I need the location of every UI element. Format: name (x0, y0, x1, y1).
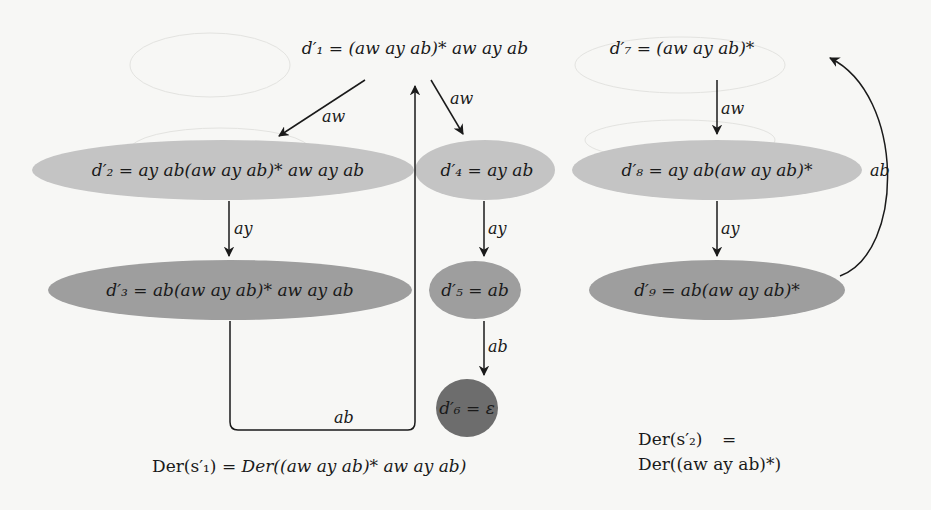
caption-right-line1: Der(s′₂) = (638, 429, 736, 449)
node-d9-label: d′₉ = ab(aw ay ab)* (634, 280, 800, 300)
derivative-diagram: d′₁ = (aw ay ab)* aw ay ab d′₂ = ay ab(a… (0, 0, 931, 510)
node-d3-label: d′₃ = ab(aw ay ab)* aw ay ab (106, 280, 353, 300)
edge-label-d2-d3: ay (234, 219, 254, 238)
node-d6-label: d′₆ = ε (439, 398, 495, 418)
node-d2-label: d′₂ = ay ab(aw ay ab)* aw ay ab (92, 160, 364, 180)
edge-label-d7-d8: aw (721, 99, 745, 118)
node-d5-label: d′₅ = ab (441, 280, 509, 300)
caption-left: Der(s′₁) = Der((aw ay ab)* aw ay ab) (152, 456, 466, 476)
edge-label-d3-d1: ab (334, 408, 354, 427)
node-d4-label: d′₄ = ay ab (441, 160, 534, 180)
edge-label-d9-d7: ab (870, 161, 890, 180)
node-d7-label: d′₇ = (aw ay ab)* (610, 38, 755, 58)
edge-label-d5-d6: ab (488, 337, 508, 356)
edge-label-d4-d5: ay (488, 219, 508, 238)
edge-label-d1-d2: aw (322, 107, 346, 126)
node-d1-label: d′₁ = (aw ay ab)* aw ay ab (302, 38, 528, 58)
edge-label-d8-d9: ay (721, 219, 741, 238)
edge-label-d1-d4: aw (450, 89, 474, 108)
caption-right-line2: Der((aw ay ab)*) (638, 454, 781, 474)
edge-d3-d1 (230, 86, 415, 430)
node-d8-label: d′₈ = ay ab(aw ay ab)* (622, 160, 813, 180)
